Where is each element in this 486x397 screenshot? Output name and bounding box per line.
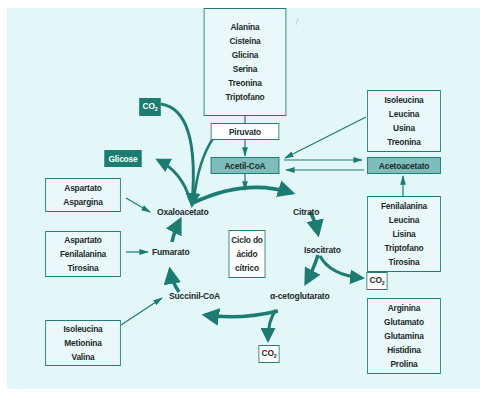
arrow-aa-oxaloacetato [126,198,150,212]
center-line: cítrico [235,261,259,275]
acetoacetato-label: Acetoacetato [379,159,429,173]
aa-label: Histidina [387,343,421,357]
aa-label: Fenilalanina [381,199,427,213]
arrow-fumarato-oxaloacetato [172,220,180,242]
aa-label: Triptofano [384,241,423,255]
arrow-co2-oxaloacetato [161,104,193,205]
aa-label: Alanina [231,20,260,34]
arrow-cetoglutarato-succinil [205,311,278,317]
acetil-coa-label: Acetil-CoA [225,159,266,173]
aa-label: Treonina [228,76,261,90]
alfa-cetoglutarato-label: α-cetoglutarato [270,290,330,301]
aa-label: Fenilalanina [60,247,106,261]
piruvato-label: Piruvato [229,125,261,139]
aa-label: Tirosina [389,255,420,269]
amino-acids-piruvato-box: Alanina Cisteína Glicina Serina Treonina… [204,8,287,116]
aa-label: Glutamato [384,315,424,329]
aa-label: Aspartato [64,181,101,195]
aa-label: Lisina [392,227,415,241]
aa-label: Arginina [388,301,421,315]
piruvato-node: Piruvato [211,123,280,140]
arrow-aa-acetilcoa [285,117,366,158]
glicose-label: Glicose [109,152,138,166]
amino-acids-succinil-box: Isoleucina Metionina Valina [45,320,121,366]
aa-label: Leucina [389,107,419,121]
aa-label: Leucina [389,213,419,227]
oxaloacetato-label: Oxaloacetato [157,206,209,217]
cycle-center-label: Ciclo do ácido cítrico [229,230,266,278]
co2-input-node: CO2 [139,98,160,116]
co2-label: CO2 [370,273,385,290]
aa-label: Serina [233,62,258,76]
aa-label: Metionina [64,336,101,350]
aa-label: Tirosina [68,261,99,275]
aa-label: Glutamina [384,329,423,343]
aa-label: Aspargina [63,195,102,209]
acetil-coa-node: Acetil-CoA [211,157,280,174]
aa-label: Aspartato [64,233,101,247]
isocitrato-label: Isocitrato [304,244,341,255]
arrow-oxaloacetato-citrato [193,187,292,203]
co2-label: CO2 [262,346,277,363]
acetoacetato-node: Acetoacetato [367,157,441,174]
amino-acids-acetoacetato-box: Fenilalanina Leucina Lisina Triptofano T… [367,196,441,272]
aa-label: Triptofano [225,90,264,104]
center-line: Ciclo do [231,233,263,247]
center-line: ácido [237,247,258,261]
amino-acids-acetilcoa-box: Isoleucina Leucina Usina Treonina [367,90,441,152]
fumarato-label: Fumarato [152,246,190,257]
co2-cetoglutarato-node: CO2 [258,345,279,363]
aa-label: Prolina [390,357,417,371]
arrow-isocitrato-co2 [320,256,362,278]
citrato-label: Citrato [293,206,319,217]
co2-isocitrato-node: CO2 [366,272,387,290]
aa-label: Cisteína [229,34,260,48]
succinil-coa-label: Succinil-CoA [169,290,220,301]
glicose-node: Glicose [105,150,142,167]
aa-label: Glicina [232,48,259,62]
arrow-oxaloacetato-glicose [158,160,190,200]
aa-label: Usina [393,121,415,135]
amino-acids-oxaloacetato-box: Aspartato Aspargina [45,178,121,212]
aa-label: Isoleucina [384,93,423,107]
aa-label: Treonina [387,135,420,149]
aa-label: Isoleucina [63,322,102,336]
arrow-isocitrato-cetoglutarato [306,255,318,283]
arrow-aa-succinil [121,298,162,325]
amino-acids-cetoglutarato-box: Arginina Glutamato Glutamina Histidina P… [367,298,441,374]
co2-label: CO2 [143,99,158,116]
amino-acids-fumarato-box: Aspartato Fenilalanina Tirosina [45,231,121,277]
aa-label: Valina [71,350,94,364]
arrow-succinil-fumarato [170,270,179,292]
